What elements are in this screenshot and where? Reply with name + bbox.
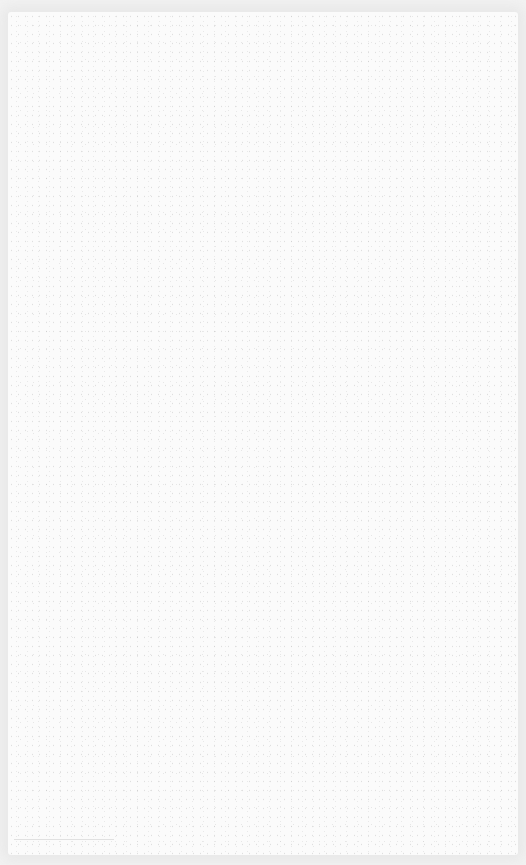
blank-screen: [0, 0, 526, 865]
faint-divider: [14, 839, 114, 840]
blank-page-area: [8, 12, 518, 855]
noise-texture: [8, 12, 518, 855]
